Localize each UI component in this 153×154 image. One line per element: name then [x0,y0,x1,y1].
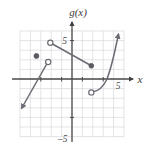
right-curve-open-endpoint [89,90,94,95]
graph-figure: g(x) x 5 –5 5 [0,0,153,154]
piecewise-function-plot: g(x) x 5 –5 5 [0,0,153,154]
x-axis-tick-label-positive: 5 [116,81,121,91]
plot-background [0,0,153,154]
y-axis-tick-label-positive: 5 [62,36,67,46]
middle-segment-open-endpoint [48,40,53,45]
x-axis-label: x [137,73,143,85]
function-label: g(x) [69,6,87,19]
middle-segment-closed-endpoint [89,64,94,69]
isolated-filled-point [34,54,39,59]
left-ray-open-endpoint [46,59,51,64]
y-axis-tick-label-negative: –5 [57,134,68,144]
